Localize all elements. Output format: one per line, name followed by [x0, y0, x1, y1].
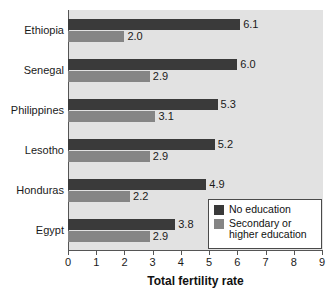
- x-axis-tick-label: 5: [206, 256, 212, 268]
- x-axis-tick: [153, 250, 154, 255]
- x-axis-tick: [209, 250, 210, 255]
- x-axis-tick: [124, 250, 125, 255]
- legend-item: No education: [214, 204, 321, 216]
- x-axis-tick-label: 0: [65, 256, 71, 268]
- bar: [68, 231, 150, 242]
- bar: [68, 219, 175, 230]
- legend-swatch-icon: [214, 219, 224, 229]
- x-axis-tick: [181, 250, 182, 255]
- bar-value-label: 6.1: [243, 19, 258, 30]
- bar: [68, 59, 237, 70]
- bar: [68, 19, 240, 30]
- x-axis-tick: [322, 250, 323, 255]
- x-axis-tick: [266, 250, 267, 255]
- x-axis-tick: [68, 250, 69, 255]
- bar: [68, 191, 130, 202]
- x-axis-tick-label: 3: [150, 256, 156, 268]
- bar: [68, 111, 155, 122]
- bar-value-label: 4.9: [209, 179, 224, 190]
- x-axis-tick: [237, 250, 238, 255]
- y-axis-category-label: Lesotho: [0, 144, 64, 156]
- y-axis-category-label: Honduras: [0, 184, 64, 196]
- x-axis-tick-label: 2: [121, 256, 127, 268]
- x-axis-tick: [294, 250, 295, 255]
- y-axis-category-label: Ethiopia: [0, 24, 64, 36]
- bar-value-label: 3.1: [158, 111, 173, 122]
- bar: [68, 99, 218, 110]
- x-axis-tick-label: 1: [93, 256, 99, 268]
- bar-value-label: 5.2: [218, 139, 233, 150]
- x-axis-tick-label: 7: [262, 256, 268, 268]
- bar-value-label: 2.9: [153, 231, 168, 242]
- bar-value-label: 6.0: [240, 59, 255, 70]
- bar-value-label: 2.0: [127, 31, 142, 42]
- bar: [68, 179, 206, 190]
- legend-item-label: Secondary or higher education: [229, 218, 307, 241]
- legend-item-label: No education: [229, 204, 291, 216]
- bar: [68, 139, 215, 150]
- y-axis-category-label: Philippines: [0, 104, 64, 116]
- fertility-rate-bar-chart: EthiopiaSenegalPhilippinesLesothoHondura…: [0, 0, 335, 295]
- legend-item: Secondary or higher education: [214, 218, 321, 241]
- bar-value-label: 2.2: [133, 191, 148, 202]
- bar-value-label: 3.8: [178, 219, 193, 230]
- bar-value-label: 5.3: [221, 99, 236, 110]
- x-axis-title: Total fertility rate: [68, 274, 323, 288]
- bar-value-label: 2.9: [153, 151, 168, 162]
- x-axis-tick-label: 4: [178, 256, 184, 268]
- x-axis-tick-label: 8: [291, 256, 297, 268]
- bar: [68, 71, 150, 82]
- legend-swatch-icon: [214, 205, 224, 215]
- y-axis-category-label: Egypt: [0, 224, 64, 236]
- x-axis-tick-label: 6: [234, 256, 240, 268]
- chart-legend: No educationSecondary or higher educatio…: [208, 199, 322, 249]
- y-axis-category-labels: EthiopiaSenegalPhilippinesLesothoHondura…: [0, 10, 64, 250]
- y-axis-category-label: Senegal: [0, 64, 64, 76]
- x-axis-tick-label: 9: [319, 256, 325, 268]
- bar: [68, 151, 150, 162]
- x-axis-tick: [96, 250, 97, 255]
- bar: [68, 31, 124, 42]
- x-axis-line: [68, 250, 323, 251]
- bar-value-label: 2.9: [153, 71, 168, 82]
